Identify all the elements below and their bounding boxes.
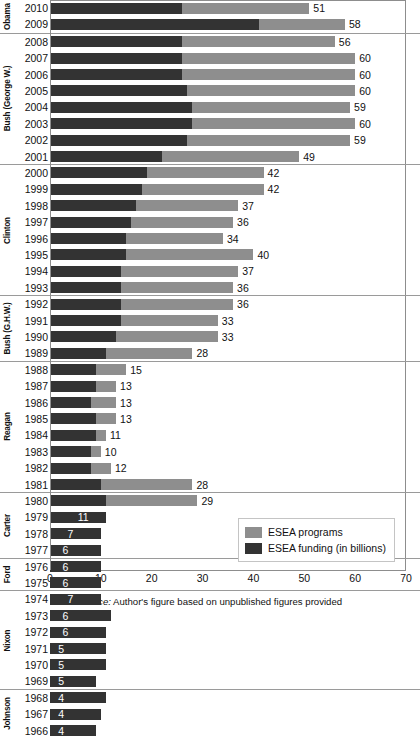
bar-esea-funding[interactable]: [50, 19, 259, 30]
bar-esea-funding[interactable]: [50, 282, 121, 293]
bar-esea-funding[interactable]: [50, 266, 121, 277]
bar-esea-funding[interactable]: [50, 135, 187, 146]
chart-row[interactable]: 200760: [15, 50, 420, 66]
bar-esea-funding[interactable]: [50, 102, 192, 113]
chart-row[interactable]: 199437: [15, 263, 420, 279]
bar-esea-funding[interactable]: [50, 3, 182, 14]
chart-row[interactable]: 199236: [15, 296, 420, 312]
x-tick-label: 40: [248, 572, 260, 584]
bar-esea-funding[interactable]: [50, 463, 91, 474]
chart-row[interactable]: 198029: [15, 493, 420, 509]
row-year-label: 1999: [15, 181, 48, 197]
chart-row[interactable]: 19705: [15, 657, 420, 673]
bar-esea-funding[interactable]: [50, 528, 101, 539]
chart-row[interactable]: 200459: [15, 99, 420, 115]
chart-row[interactable]: 200958: [15, 16, 420, 32]
chart-row[interactable]: 200042: [15, 165, 420, 181]
bar-esea-funding[interactable]: [50, 381, 96, 392]
chart-row[interactable]: 200560: [15, 83, 420, 99]
bar-esea-funding[interactable]: [50, 331, 116, 342]
bar-value-label: 60: [359, 50, 371, 66]
chart-row[interactable]: 19695: [15, 673, 420, 689]
row-year-label: 1983: [15, 444, 48, 460]
row-year-label: 1969: [15, 673, 48, 689]
bar-esea-funding[interactable]: [50, 315, 121, 326]
bar-esea-funding[interactable]: [50, 53, 182, 64]
bar-esea-funding[interactable]: [50, 233, 126, 244]
row-bars: 15: [50, 362, 420, 378]
chart-row[interactable]: 19726: [15, 624, 420, 640]
bar-value-label: 29: [201, 493, 213, 509]
bar-esea-funding[interactable]: [50, 430, 96, 441]
chart-row[interactable]: 200660: [15, 67, 420, 83]
chart-row[interactable]: 199736: [15, 214, 420, 230]
bar-esea-funding[interactable]: [50, 151, 162, 162]
bar-esea-funding[interactable]: [50, 397, 91, 408]
chart-row[interactable]: 198513: [15, 411, 420, 427]
chart-row[interactable]: 19715: [15, 641, 420, 657]
chart-row[interactable]: 19684: [15, 690, 420, 706]
chart-row[interactable]: 200259: [15, 132, 420, 148]
bar-value-label: 7: [61, 526, 73, 542]
bar-esea-funding[interactable]: [50, 184, 142, 195]
group-label: Bush (G.H.W.): [0, 296, 15, 361]
chart-row[interactable]: 19736: [15, 608, 420, 624]
bar-esea-funding[interactable]: [50, 348, 106, 359]
row-year-label: 2008: [15, 34, 48, 50]
chart-row[interactable]: 198713: [15, 378, 420, 394]
bar-value-label: 6: [56, 542, 68, 558]
chart-row[interactable]: 19664: [15, 723, 420, 739]
bar-esea-funding[interactable]: [50, 167, 147, 178]
group-label: Clinton: [0, 165, 15, 295]
chart-row[interactable]: 198815: [15, 362, 420, 378]
group-rows: 199236199133199033198928: [15, 296, 420, 362]
chart-row[interactable]: 198613: [15, 395, 420, 411]
row-bars: 11: [50, 427, 420, 443]
bar-esea-funding[interactable]: [50, 118, 192, 129]
chart-row[interactable]: 199634: [15, 231, 420, 247]
chart-row[interactable]: 198128: [15, 477, 420, 493]
bar-esea-funding[interactable]: [50, 495, 106, 506]
row-bars: 36: [50, 280, 420, 296]
row-bars: 60: [50, 116, 420, 132]
bar-esea-funding[interactable]: [50, 299, 121, 310]
bar-esea-funding[interactable]: [50, 446, 91, 457]
bar-esea-funding[interactable]: [50, 36, 182, 47]
bar-esea-funding[interactable]: [50, 479, 101, 490]
row-bars: 58: [50, 16, 420, 32]
bar-esea-funding[interactable]: [50, 594, 101, 605]
chart-row[interactable]: 199336: [15, 280, 420, 296]
bar-value-label: 11: [77, 509, 89, 525]
chart-row[interactable]: 198411: [15, 427, 420, 443]
chart-row[interactable]: 198928: [15, 345, 420, 361]
group-label: Ford: [0, 559, 15, 591]
chart-row[interactable]: 200149: [15, 149, 420, 165]
chart-row[interactable]: 199540: [15, 247, 420, 263]
bar-value-label: 13: [120, 378, 132, 394]
bar-esea-funding[interactable]: [50, 217, 131, 228]
group-label-text: Nixon: [3, 629, 12, 651]
row-year-label: 1996: [15, 231, 48, 247]
bar-esea-funding[interactable]: [50, 249, 126, 260]
bar-value-label: 37: [242, 263, 254, 279]
row-year-label: 1976: [15, 559, 48, 575]
chart-row[interactable]: 200360: [15, 116, 420, 132]
row-bars: 4: [50, 706, 420, 722]
chart-row[interactable]: 199837: [15, 198, 420, 214]
chart-row[interactable]: 199033: [15, 329, 420, 345]
source-text: Author's figure based on unpublished fig…: [111, 596, 342, 607]
bar-esea-funding[interactable]: [50, 413, 96, 424]
bar-esea-funding[interactable]: [50, 69, 182, 80]
chart-row[interactable]: 199133: [15, 313, 420, 329]
chart-row[interactable]: 199942: [15, 181, 420, 197]
chart-row[interactable]: 19674: [15, 706, 420, 722]
bar-esea-funding[interactable]: [50, 364, 96, 375]
chart-row[interactable]: 201051: [15, 0, 420, 16]
chart-row[interactable]: 200856: [15, 34, 420, 50]
chart-row[interactable]: 198212: [15, 460, 420, 476]
row-year-label: 2009: [15, 16, 48, 32]
chart-row[interactable]: 198310: [15, 444, 420, 460]
bar-esea-funding[interactable]: [50, 200, 136, 211]
bar-esea-funding[interactable]: [50, 85, 187, 96]
